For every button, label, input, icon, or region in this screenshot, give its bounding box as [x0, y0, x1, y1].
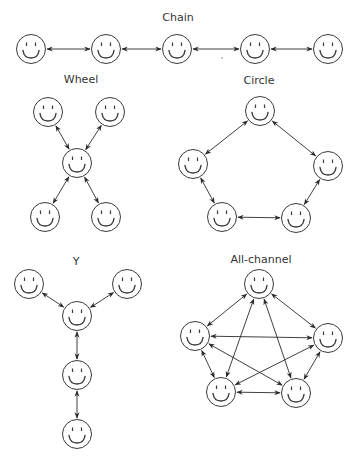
bidirectional-arrow	[237, 392, 280, 393]
smiley-face-icon	[314, 35, 343, 64]
bidirectional-arrow	[272, 294, 316, 328]
network-title-chain: Chain	[162, 11, 193, 24]
network-title-y: Y	[72, 255, 80, 268]
bidirectional-arrow	[264, 299, 291, 378]
bidirectional-arrow	[56, 126, 69, 149]
smiley-face-icon	[92, 203, 121, 232]
bidirectional-arrow	[304, 352, 320, 379]
smiley-face-icon	[96, 98, 125, 127]
bidirectional-arrow	[238, 217, 280, 218]
bidirectional-arrow	[207, 294, 246, 326]
smiley-face-icon	[245, 270, 274, 299]
smiley-face-icon	[63, 149, 92, 178]
smiley-face-icon	[181, 322, 210, 351]
bidirectional-arrow	[85, 177, 99, 203]
wheel-nodes	[31, 98, 125, 232]
network-title-all-channel: All-channel	[230, 253, 291, 266]
bidirectional-arrow	[201, 178, 215, 203]
bidirectional-arrow	[53, 177, 69, 203]
network-y: Y	[15, 255, 142, 449]
network-wheel: Wheel	[31, 73, 125, 232]
all-channel-nodes	[181, 270, 343, 408]
smiley-face-icon	[179, 150, 208, 179]
bidirectional-arrow	[226, 299, 253, 377]
bidirectional-arrow	[211, 336, 312, 338]
bidirectional-arrow	[304, 180, 319, 205]
smiley-face-icon	[163, 35, 192, 64]
bidirectional-arrow	[202, 351, 215, 378]
smiley-face-icon	[113, 270, 142, 299]
communication-networks-diagram: Chain Wheel Circle Y All-channel	[0, 0, 359, 465]
network-circle: Circle	[179, 74, 343, 233]
smiley-face-icon	[282, 204, 311, 233]
smiley-face-icon	[63, 420, 92, 449]
smiley-face-icon	[92, 35, 121, 64]
smiley-face-icon	[246, 97, 275, 126]
smiley-face-icon	[15, 270, 44, 299]
stray-mark	[221, 57, 223, 59]
smiley-face-icon	[17, 35, 46, 64]
smiley-face-icon	[63, 302, 92, 331]
smiley-face-icon	[241, 35, 270, 64]
circle-nodes	[179, 97, 343, 233]
network-chain: Chain	[17, 11, 343, 64]
network-title-circle: Circle	[244, 74, 275, 87]
smiley-face-icon	[63, 361, 92, 390]
smiley-face-icon	[208, 203, 237, 232]
smiley-face-icon	[207, 378, 236, 407]
bidirectional-arrow	[272, 121, 315, 156]
smiley-face-icon	[31, 203, 60, 232]
smiley-face-icon	[314, 324, 343, 353]
smiley-face-icon	[314, 152, 343, 181]
smiley-face-icon	[34, 98, 63, 127]
bidirectional-arrow	[206, 121, 248, 154]
network-title-wheel: Wheel	[64, 73, 98, 86]
y-nodes	[15, 270, 142, 449]
bidirectional-arrow	[91, 293, 114, 308]
smiley-face-icon	[282, 379, 311, 408]
network-all-channel: All-channel	[181, 253, 343, 408]
bidirectional-arrow	[86, 125, 102, 149]
bidirectional-arrow	[42, 293, 63, 307]
